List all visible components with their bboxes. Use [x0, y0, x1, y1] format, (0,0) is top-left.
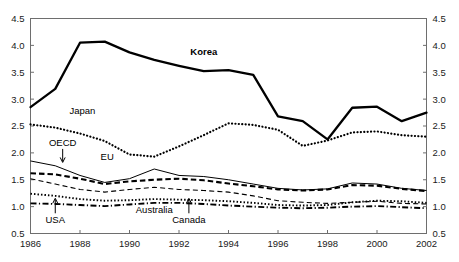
x-axis-tick: 1996 [267, 238, 288, 249]
y-axis-left-tick: 3.0 [11, 94, 24, 105]
y-axis-right-tick: 1.0 [433, 201, 446, 212]
series-label-oecd: OECD [49, 137, 77, 148]
y-axis-left-tick: 1.0 [11, 201, 24, 212]
x-axis-tick: 1990 [119, 238, 140, 249]
x-axis-tick: 2002 [416, 238, 437, 249]
series-label-eu: EU [101, 151, 114, 162]
y-axis-right-tick: 3.0 [433, 94, 446, 105]
y-axis-right-tick: 4.5 [433, 13, 446, 24]
chart-background [0, 0, 459, 262]
y-axis-right-labels: 0.51.01.52.02.53.03.54.04.5 [433, 13, 446, 239]
y-axis-right-tick: 4.0 [433, 40, 446, 51]
series-label-australia: Australia [136, 204, 174, 215]
y-axis-right-tick: 3.5 [433, 67, 446, 78]
y-axis-left-labels: 0.51.01.52.02.53.03.54.04.5 [11, 13, 24, 239]
x-axis-tick: 1988 [69, 238, 90, 249]
x-axis-labels: 198619881990199219941996199820002002 [20, 238, 437, 249]
y-axis-left-tick: 2.5 [11, 120, 24, 131]
x-axis-tick: 1998 [317, 238, 338, 249]
y-axis-left-tick: 1.5 [11, 174, 24, 185]
chart-container: R&D expenditure (per cent of GDP)(a) 0.5… [0, 0, 459, 262]
y-axis-right-tick: 2.5 [433, 120, 446, 131]
series-label-canada: Canada [172, 214, 206, 225]
y-axis-right-tick: 2.0 [433, 147, 446, 158]
y-axis-left-tick: 2.0 [11, 147, 24, 158]
y-axis-right-tick: 1.5 [433, 174, 446, 185]
y-axis-left-tick: 4.5 [11, 13, 24, 24]
x-axis-tick: 1994 [218, 238, 239, 249]
y-axis-left-tick: 3.5 [11, 67, 24, 78]
x-axis-tick: 2000 [366, 238, 387, 249]
series-label-usa: USA [45, 214, 65, 225]
y-axis-left-tick: 4.0 [11, 40, 24, 51]
series-label-korea: Korea [190, 46, 218, 57]
series-label-japan: Japan [70, 105, 96, 116]
x-axis-tick: 1986 [20, 238, 41, 249]
x-axis-tick: 1992 [168, 238, 189, 249]
line-chart-plot: 0.51.01.52.02.53.03.54.04.5 0.51.01.52.0… [0, 0, 459, 262]
